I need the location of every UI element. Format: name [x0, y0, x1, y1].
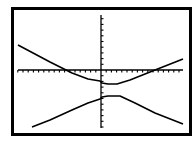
graph-screen: [0, 0, 195, 142]
lower-branch-curve: [32, 96, 183, 127]
